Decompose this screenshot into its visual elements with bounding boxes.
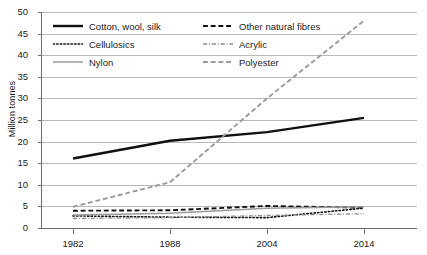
y-tick-label: 0 <box>0 223 28 233</box>
legend-item: Other natural fibres <box>203 17 353 35</box>
legend-item: Acrylic <box>203 35 353 53</box>
line-chart: Million tonnes 05101520253035404550 1982… <box>0 0 427 255</box>
y-axis-title: Million tonnes <box>7 49 17 169</box>
legend-item: Nylon <box>53 53 203 71</box>
legend-item: Cellulosics <box>53 35 203 53</box>
series-line <box>73 118 364 159</box>
x-tick-mark <box>170 228 171 234</box>
x-tick-mark <box>73 228 74 234</box>
legend-swatch-icon <box>53 21 83 31</box>
x-tick-mark <box>267 228 268 234</box>
chart-legend: Cotton, wool, silkOther natural fibresCe… <box>53 17 353 71</box>
x-tick-label: 1988 <box>140 238 200 249</box>
series-line <box>73 208 364 218</box>
legend-item: Polyester <box>203 53 353 71</box>
legend-item: Cotton, wool, silk <box>53 17 203 35</box>
y-tick-label: 35 <box>0 72 28 82</box>
y-tick-label: 25 <box>0 115 28 125</box>
legend-swatch-icon <box>203 57 233 67</box>
legend-label: Acrylic <box>239 39 267 50</box>
y-tick-label: 50 <box>0 7 28 17</box>
y-tick-label: 45 <box>0 29 28 39</box>
y-tick-label: 30 <box>0 93 28 103</box>
x-tick-label: 2014 <box>334 238 394 249</box>
legend-swatch-icon <box>53 57 83 67</box>
x-tick-label: 1982 <box>43 238 103 249</box>
x-axis-line <box>42 228 417 229</box>
x-tick-mark <box>364 228 365 234</box>
series-line <box>73 207 364 215</box>
legend-label: Cellulosics <box>89 39 134 50</box>
legend-label: Cotton, wool, silk <box>89 21 161 32</box>
legend-label: Other natural fibres <box>239 21 320 32</box>
y-tick-label: 20 <box>0 137 28 147</box>
legend-swatch-icon <box>53 39 83 49</box>
legend-label: Polyester <box>239 57 279 68</box>
legend-swatch-icon <box>203 39 233 49</box>
y-tick-label: 40 <box>0 50 28 60</box>
y-tick-label: 15 <box>0 158 28 168</box>
x-tick-label: 2004 <box>237 238 297 249</box>
y-tick-label: 5 <box>0 201 28 211</box>
y-tick-label: 10 <box>0 180 28 190</box>
legend-swatch-icon <box>203 21 233 31</box>
legend-label: Nylon <box>89 57 113 68</box>
